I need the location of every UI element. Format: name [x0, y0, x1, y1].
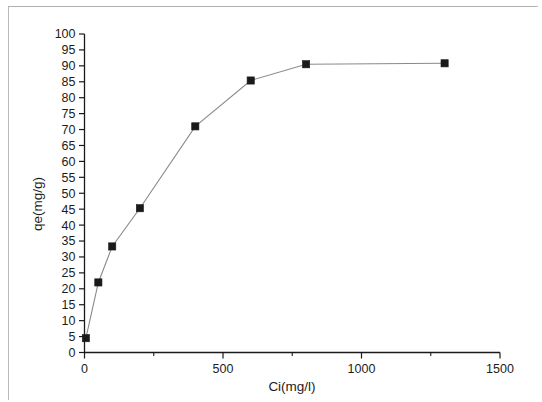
y-tick-label: 65 [62, 139, 76, 153]
y-tick-label: 35 [62, 234, 76, 248]
data-series-markers [82, 60, 448, 342]
y-tick-label: 45 [62, 203, 76, 217]
y-axis-title: qe(mg/g) [30, 177, 45, 231]
y-tick-label: 20 [62, 282, 76, 296]
y-tick-label: 0 [69, 346, 76, 360]
data-point-marker [95, 279, 102, 286]
y-tick-label: 100 [55, 27, 76, 41]
y-tick-label: 90 [62, 59, 76, 73]
x-tick-label: 500 [213, 362, 234, 376]
chart-canvas: 0510152025303540455055606570758085909510… [0, 0, 542, 402]
x-tick-label: 1500 [486, 362, 514, 376]
y-tick-label: 80 [62, 91, 76, 105]
y-tick-label: 85 [62, 75, 76, 89]
y-tick-label: 95 [62, 43, 76, 57]
y-tick-label: 50 [62, 187, 76, 201]
y-tick-label: 30 [62, 250, 76, 264]
y-tick-label: 25 [62, 266, 76, 280]
x-tick-label: 0 [81, 362, 88, 376]
y-tick-label: 55 [62, 171, 76, 185]
data-point-marker [303, 61, 310, 68]
data-point-marker [247, 77, 254, 84]
data-point-marker [192, 123, 199, 130]
data-point-marker [82, 335, 89, 342]
figure-page: 0510152025303540455055606570758085909510… [0, 0, 542, 402]
data-point-marker [441, 60, 448, 67]
x-axis-tick-labels: 050010001500 [81, 362, 514, 376]
y-tick-label: 70 [62, 123, 76, 137]
axes-group [84, 34, 500, 353]
y-axis-tick-labels: 0510152025303540455055606570758085909510… [55, 27, 76, 360]
x-axis-title: Ci(mg/l) [268, 379, 315, 394]
y-tick-label: 5 [69, 330, 76, 344]
y-tick-label: 40 [62, 219, 76, 233]
y-tick-label: 60 [62, 155, 76, 169]
data-point-marker [136, 205, 143, 212]
x-tick-label: 1000 [348, 362, 376, 376]
y-axis-ticks [79, 34, 85, 353]
y-tick-label: 15 [62, 298, 76, 312]
y-tick-label: 10 [62, 314, 76, 328]
data-series-line [86, 63, 445, 338]
data-point-marker [109, 243, 116, 250]
y-tick-label: 75 [62, 107, 76, 121]
adsorption-isotherm-chart: 0510152025303540455055606570758085909510… [0, 0, 542, 402]
